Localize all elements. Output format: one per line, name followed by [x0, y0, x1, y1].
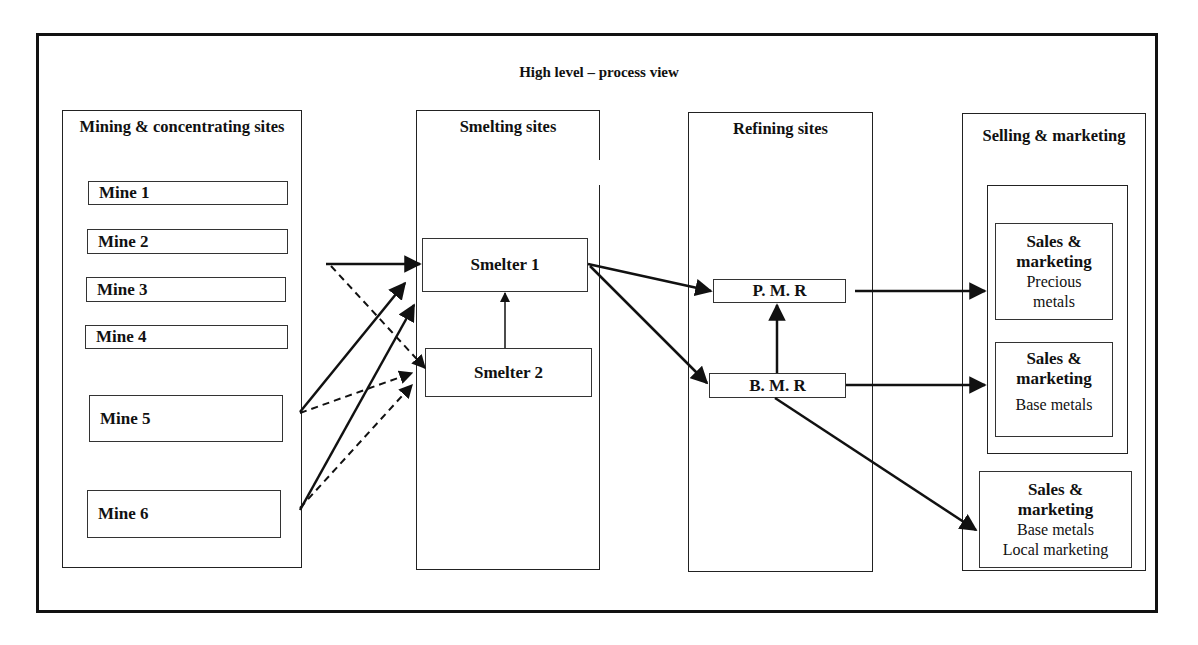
smelter-1: Smelter 1 [422, 238, 588, 292]
sales-base-metals: Sales & marketing Base metals [995, 342, 1113, 437]
mine-3: Mine 3 [86, 277, 286, 302]
mine-2: Mine 2 [87, 229, 288, 254]
smelter-1-label: Smelter 1 [470, 255, 539, 275]
sales-precious-sub: Precious metals [1019, 272, 1089, 312]
mine-4-label: Mine 4 [96, 327, 147, 347]
mine-6: Mine 6 [87, 490, 281, 538]
mine-4: Mine 4 [85, 325, 288, 349]
smelter-2: Smelter 2 [425, 348, 592, 397]
mine-2-label: Mine 2 [98, 232, 149, 252]
smelter-2-label: Smelter 2 [474, 363, 543, 383]
smelting-border-gap [597, 160, 603, 185]
sales-local-sub2: Local marketing [1003, 540, 1108, 560]
column-refining-title: Refining sites [689, 119, 872, 139]
column-smelting-title: Smelting sites [417, 117, 599, 137]
mine-1-label: Mine 1 [99, 183, 150, 203]
sales-base-heading: Sales & marketing [1009, 349, 1099, 389]
mine-5-label: Mine 5 [100, 409, 151, 429]
refinery-pmr: P. M. R [713, 279, 846, 303]
mine-1: Mine 1 [88, 181, 288, 205]
column-mining-title: Mining & concentrating sites [63, 117, 301, 137]
sales-precious-metals: Sales & marketing Precious metals [995, 223, 1113, 320]
mine-3-label: Mine 3 [97, 280, 148, 300]
sales-precious-heading: Sales & marketing [1009, 232, 1099, 272]
column-smelting: Smelting sites [416, 110, 600, 570]
refinery-pmr-label: P. M. R [752, 281, 806, 301]
mine-6-label: Mine 6 [98, 504, 149, 524]
sales-local-sub: Base metals [1017, 520, 1094, 540]
mine-5: Mine 5 [89, 395, 283, 442]
diagram-title: High level – process view [0, 64, 1198, 81]
sales-local-heading: Sales & marketing [1011, 480, 1101, 520]
column-refining: Refining sites [688, 112, 873, 572]
refinery-bmr: B. M. R [709, 373, 846, 398]
column-selling-title: Selling & marketing [963, 126, 1145, 146]
sales-base-local: Sales & marketing Base metals Local mark… [979, 471, 1132, 568]
sales-base-sub: Base metals [1016, 395, 1093, 415]
refinery-bmr-label: B. M. R [749, 376, 806, 396]
